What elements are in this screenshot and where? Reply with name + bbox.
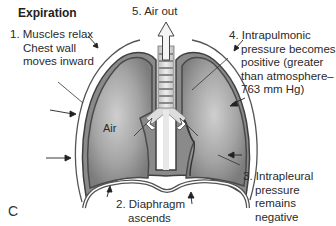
step4-line4: than atmosphere–	[229, 70, 336, 84]
step1-line3: moves inward	[10, 55, 94, 69]
left-lung	[88, 57, 152, 188]
step1-line2: Chest wall	[10, 42, 94, 56]
step2-line2: ascends	[116, 212, 185, 226]
label-step1: 1. Muscles relax Chest wall moves inward	[10, 28, 94, 69]
label-step2: 2. Diaphragm ascends	[116, 198, 185, 225]
label-air: Air	[103, 122, 116, 136]
step4-line3: positive (greater	[229, 56, 336, 70]
panel-letter: C	[8, 203, 18, 219]
diagram-title: Expiration	[18, 6, 77, 20]
label-step3: 3. Intrapleural pressure remains negativ…	[243, 170, 313, 224]
step4-line5: 763 mm Hg)	[229, 83, 336, 97]
step3-line1: 3. Intrapleural	[243, 170, 313, 184]
step1-line1: 1. Muscles relax	[10, 28, 94, 42]
step4-line2: pressure becomes	[229, 43, 336, 57]
step3-line4: negative	[243, 211, 313, 225]
step3-line3: remains	[243, 197, 313, 211]
step4-line1: 4. Intrapulmonic	[229, 29, 336, 43]
step3-line2: pressure	[243, 184, 313, 198]
label-step4: 4. Intrapulmonic pressure becomes positi…	[229, 29, 336, 97]
step2-line1: 2. Diaphragm	[116, 198, 185, 212]
label-step5: 5. Air out	[132, 5, 177, 19]
